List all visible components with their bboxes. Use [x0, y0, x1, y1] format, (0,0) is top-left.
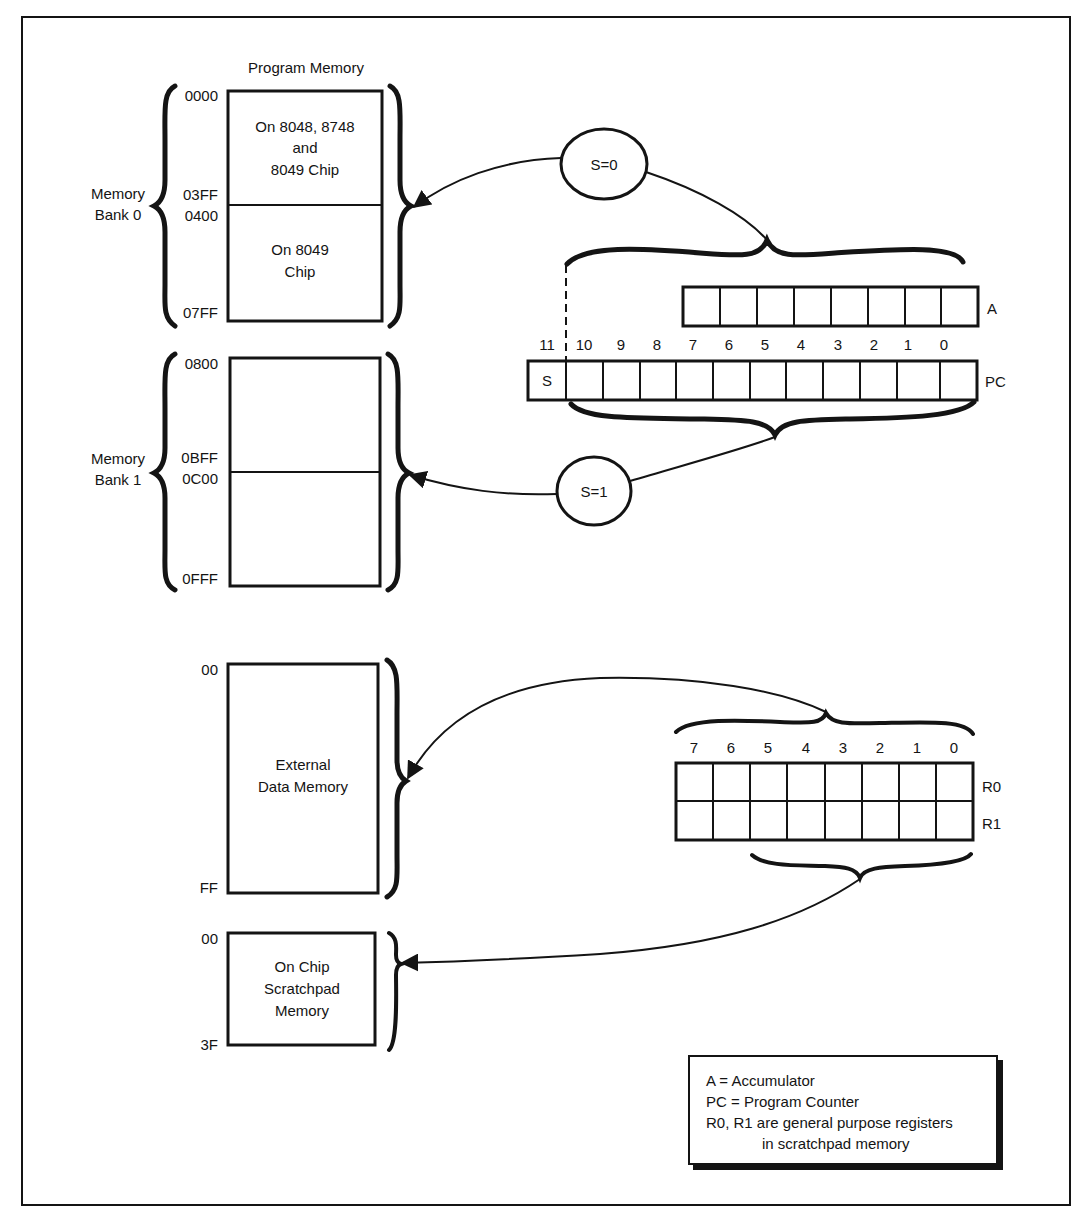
pc-lower-brace: [571, 402, 974, 435]
svg-text:4: 4: [797, 336, 805, 353]
r-to-scratchpad-arrow: [402, 879, 860, 963]
figure-frame: [22, 17, 1070, 1205]
bank0-label-line1: Memory: [91, 185, 146, 202]
bank1-addr-start: 0800: [185, 355, 218, 372]
scratchpad-addr-start: 00: [201, 930, 218, 947]
bank0-lower-line2: Chip: [285, 263, 316, 280]
bank1-addr-split-start: 0C00: [182, 470, 218, 487]
svg-text:0: 0: [940, 336, 948, 353]
program-counter-register: [528, 361, 977, 400]
svg-text:3: 3: [834, 336, 842, 353]
external-addr-end: FF: [200, 879, 218, 896]
program-memory-title: Program Memory: [248, 59, 364, 76]
svg-text:5: 5: [761, 336, 769, 353]
svg-text:6: 6: [727, 739, 735, 756]
bank0-upper-line2: and: [292, 139, 317, 156]
external-data-memory-line1: External: [275, 756, 330, 773]
bank1-addr-end: 0FFF: [182, 570, 218, 587]
svg-text:9: 9: [617, 336, 625, 353]
svg-text:3: 3: [839, 739, 847, 756]
svg-text:2: 2: [870, 336, 878, 353]
svg-text:5: 5: [764, 739, 772, 756]
r0-r1-registers: [676, 763, 973, 840]
svg-text:2: 2: [876, 739, 884, 756]
r0-label: R0: [982, 778, 1001, 795]
r-lower-brace: [752, 854, 971, 878]
r-bit-numbers: 7 6 5 4 3 2 1 0: [690, 739, 958, 756]
selector-s1-label: S=1: [580, 483, 607, 500]
legend-registers: R0, R1 are general purpose registers: [706, 1114, 953, 1132]
accumulator-register: [683, 287, 978, 326]
external-addr-start: 00: [201, 661, 218, 678]
pc-msb-cell-s: S: [542, 372, 552, 389]
svg-text:1: 1: [904, 336, 912, 353]
bank0-addr-start: 0000: [185, 87, 218, 104]
bank1-addr-split-end: 0BFF: [181, 449, 218, 466]
bank1-right-brace: [388, 354, 409, 590]
scratchpad-addr-end: 3F: [200, 1036, 218, 1053]
svg-text:8: 8: [653, 336, 661, 353]
r1-label: R1: [982, 815, 1001, 832]
bank0-upper-line3: 8049 Chip: [271, 161, 339, 178]
program-counter-label: PC: [985, 373, 1006, 390]
bank0-addr-split-end: 03FF: [183, 186, 218, 203]
bank1-left-brace: [154, 354, 175, 590]
memory-map-diagram: Program Memory On 8048, 8748 and 8049 Ch…: [0, 0, 1079, 1223]
s1-to-pc-brace-line: [630, 437, 775, 481]
s0-to-bank0-arrow: [414, 158, 561, 207]
pc-upper-brace: [567, 240, 963, 264]
legend-accumulator: A = Accumulator: [706, 1072, 815, 1090]
scratchpad-line2: Scratchpad: [264, 980, 340, 997]
bank0-left-brace: [154, 86, 175, 326]
svg-text:7: 7: [690, 739, 698, 756]
bank0-addr-split-start: 0400: [185, 207, 218, 224]
scratchpad-right-brace: [389, 933, 401, 1050]
bank1-label-line2: Bank 1: [95, 471, 142, 488]
svg-text:0: 0: [950, 739, 958, 756]
bank0-label-line2: Bank 0: [95, 206, 142, 223]
external-data-memory-line2: Data Memory: [258, 778, 349, 795]
legend-program-counter: PC = Program Counter: [706, 1093, 859, 1111]
scratchpad-line1: On Chip: [274, 958, 329, 975]
bank0-addr-end: 07FF: [183, 304, 218, 321]
s1-to-bank1-arrow: [410, 475, 557, 494]
svg-text:1: 1: [913, 739, 921, 756]
svg-text:7: 7: [689, 336, 697, 353]
svg-text:11: 11: [539, 336, 555, 353]
pc-bit-numbers: 11 10 9 8 7 6 5 4 3 2 1 0: [539, 336, 948, 353]
bank0-right-brace: [390, 86, 411, 326]
bank0-lower-line1: On 8049: [271, 241, 329, 258]
selector-s0-label: S=0: [590, 156, 617, 173]
external-right-brace: [387, 660, 406, 897]
bank0-upper-line1: On 8048, 8748: [255, 118, 354, 135]
accumulator-label: A: [987, 300, 997, 317]
legend-box: A = Accumulator PC = Program Counter R0,…: [688, 1055, 998, 1165]
legend-registers-cont: in scratchpad memory: [762, 1135, 910, 1153]
r-upper-brace: [676, 713, 973, 734]
svg-text:10: 10: [576, 336, 593, 353]
svg-text:6: 6: [725, 336, 733, 353]
bank1-label-line1: Memory: [91, 450, 146, 467]
scratchpad-line3: Memory: [275, 1002, 330, 1019]
s0-to-pc-brace-line: [646, 172, 767, 240]
svg-text:4: 4: [802, 739, 810, 756]
